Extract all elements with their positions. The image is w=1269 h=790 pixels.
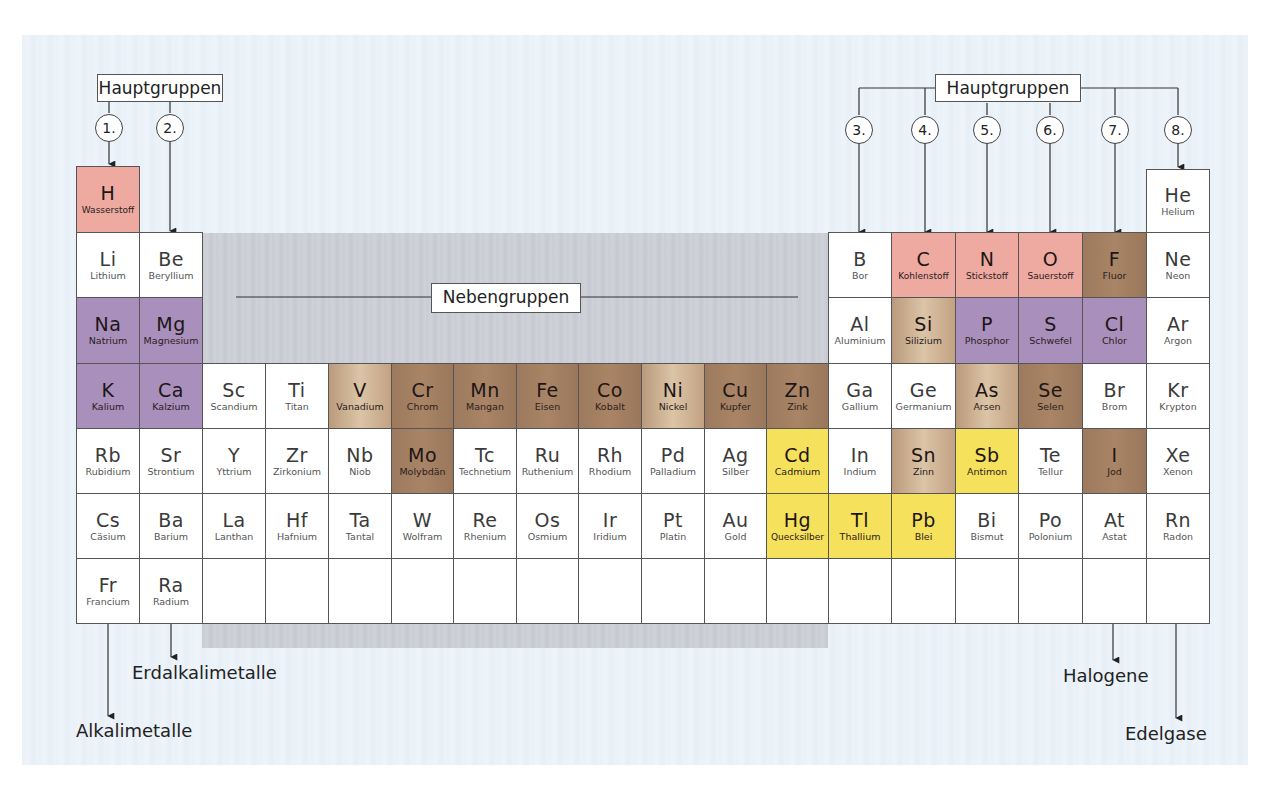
empty-cell xyxy=(453,558,517,624)
element-name: Zink xyxy=(787,401,808,413)
element-symbol: B xyxy=(853,249,867,270)
empty-cell xyxy=(641,558,705,624)
element-symbol: Sb xyxy=(974,445,999,466)
empty-cell xyxy=(1018,558,1083,624)
element-name: Tantal xyxy=(346,531,374,543)
element-symbol: Bi xyxy=(977,510,996,531)
element-name: Polonium xyxy=(1029,531,1073,543)
element-symbol: Ar xyxy=(1167,314,1189,335)
element-cell-tl: TlThallium xyxy=(828,493,892,559)
element-name: Chrom xyxy=(407,401,438,413)
element-cell-zr: ZrZirkonium xyxy=(265,428,329,494)
noble-gases-label: Edelgase xyxy=(1125,723,1207,744)
element-symbol: Os xyxy=(535,510,561,531)
element-symbol: Zr xyxy=(286,445,308,466)
element-name: Bismut xyxy=(970,531,1003,543)
element-name: Rubidium xyxy=(86,466,131,478)
element-cell-sb: SbAntimon xyxy=(955,428,1019,494)
element-cell-cr: CrChrom xyxy=(391,363,454,429)
element-cell-ag: AgSilber xyxy=(704,428,767,494)
element-name: Arsen xyxy=(973,401,1000,413)
element-name: Germanium xyxy=(896,401,952,413)
element-name: Argon xyxy=(1164,335,1192,347)
empty-cell xyxy=(202,558,266,624)
element-symbol: Ru xyxy=(535,445,560,466)
element-name: Chlor xyxy=(1102,335,1127,347)
element-cell-p: PPhosphor xyxy=(955,297,1019,364)
element-symbol: Pt xyxy=(663,510,683,531)
element-symbol: Sn xyxy=(911,445,936,466)
group-number-6: 6. xyxy=(1036,116,1064,144)
element-cell-co: CoKobalt xyxy=(578,363,642,429)
element-cell-as: AsArsen xyxy=(955,363,1019,429)
element-name: Xenon xyxy=(1163,466,1193,478)
element-name: Barium xyxy=(154,531,188,543)
element-symbol: Ni xyxy=(663,380,684,401)
element-cell-i: IJod xyxy=(1082,428,1147,494)
element-cell-pd: PdPalladium xyxy=(641,428,705,494)
element-cell-ca: CaKalzium xyxy=(139,363,203,429)
element-name: Neon xyxy=(1166,270,1191,282)
element-cell-pt: PtPlatin xyxy=(641,493,705,559)
element-name: Natrium xyxy=(89,335,127,347)
element-symbol: Ga xyxy=(846,380,873,401)
element-symbol: N xyxy=(980,249,995,270)
element-cell-cl: ClChlor xyxy=(1082,297,1147,364)
element-symbol: Se xyxy=(1038,380,1063,401)
element-name: Antimon xyxy=(967,466,1007,478)
element-symbol: Mn xyxy=(470,380,499,401)
empty-cell xyxy=(328,558,392,624)
element-name: Astat xyxy=(1102,531,1127,543)
element-symbol: Cr xyxy=(411,380,433,401)
element-symbol: F xyxy=(1109,249,1120,270)
element-cell-y: YYttrium xyxy=(202,428,266,494)
element-cell-cd: CdCadmium xyxy=(766,428,829,494)
element-name: Molybdän xyxy=(399,466,445,478)
element-name: Kalium xyxy=(92,401,124,413)
element-symbol: Cu xyxy=(722,380,748,401)
element-cell-ra: RaRadium xyxy=(139,558,203,624)
element-name: Fluor xyxy=(1103,270,1127,282)
element-name: Titan xyxy=(285,401,309,413)
element-name: Scandium xyxy=(210,401,257,413)
element-symbol: S xyxy=(1044,314,1057,335)
element-cell-nb: NbNiob xyxy=(328,428,392,494)
element-symbol: Rb xyxy=(95,445,121,466)
element-cell-cu: CuKupfer xyxy=(704,363,767,429)
element-symbol: C xyxy=(917,249,931,270)
element-cell-se: SeSelen xyxy=(1018,363,1083,429)
element-cell-rn: RnRadon xyxy=(1146,493,1210,559)
element-symbol: Sr xyxy=(161,445,182,466)
element-symbol: Ti xyxy=(288,380,305,401)
sub-groups-label: Nebengruppen xyxy=(431,283,581,313)
element-name: Aluminium xyxy=(835,335,886,347)
element-cell-hg: HgQuecksilber xyxy=(766,493,829,559)
element-cell-sn: SnZinn xyxy=(891,428,956,494)
empty-cell xyxy=(265,558,329,624)
element-name: Strontium xyxy=(148,466,195,478)
element-name: Kohlenstoff xyxy=(898,270,948,282)
element-name: Wasserstoff xyxy=(82,204,134,216)
element-name: Thallium xyxy=(840,531,881,543)
element-symbol: Al xyxy=(850,314,869,335)
element-symbol: Be xyxy=(158,249,184,270)
element-cell-la: LaLanthan xyxy=(202,493,266,559)
element-symbol: Ra xyxy=(158,575,183,596)
element-cell-ne: NeNeon xyxy=(1146,232,1210,298)
element-cell-na: NaNatrium xyxy=(76,297,140,364)
element-name: Osmium xyxy=(528,531,568,543)
element-cell-v: VVanadium xyxy=(328,363,392,429)
element-symbol: Sc xyxy=(222,380,246,401)
element-symbol: Mg xyxy=(156,314,185,335)
element-cell-au: AuGold xyxy=(704,493,767,559)
element-symbol: Li xyxy=(100,249,117,270)
element-symbol: Cd xyxy=(784,445,810,466)
element-cell-in: InIndium xyxy=(828,428,892,494)
element-cell-cs: CsCäsium xyxy=(76,493,140,559)
element-symbol: La xyxy=(222,510,245,531)
element-symbol: Nb xyxy=(346,445,373,466)
element-name: Rhenium xyxy=(464,531,506,543)
element-name: Phosphor xyxy=(965,335,1009,347)
element-cell-b: BBor xyxy=(828,232,892,298)
element-symbol: Ag xyxy=(722,445,748,466)
